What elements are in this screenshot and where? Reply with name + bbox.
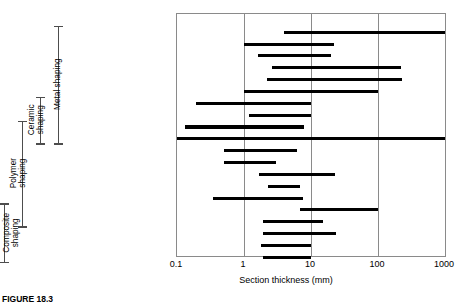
figure-caption: FIGURE 18.3: [2, 294, 53, 304]
range-bar: [284, 31, 445, 34]
range-bar: [267, 78, 402, 81]
category-label-column: Sand castingDie castingInvestment castin…: [0, 0, 174, 255]
gridline: [244, 14, 245, 256]
range-bar: [300, 208, 378, 211]
range-bar: [224, 149, 297, 152]
range-bar: [261, 244, 311, 247]
range-bar: [196, 102, 311, 105]
range-bar: [177, 137, 445, 140]
x-tick-label: 0.1: [170, 259, 183, 269]
x-tick-label: 100: [369, 259, 384, 269]
range-bar: [185, 125, 305, 128]
figure-container: Metal shapingCeramicshapingPolymershapin…: [0, 0, 462, 307]
range-bar: [244, 43, 334, 46]
x-tick-label: 10: [305, 259, 315, 269]
range-bar: [272, 66, 401, 69]
plot-area: [176, 13, 446, 257]
range-bar: [249, 114, 311, 117]
range-bar: [263, 232, 337, 235]
range-bar: [259, 173, 335, 176]
x-tick-label: 1: [240, 259, 245, 269]
gridline: [378, 14, 379, 256]
range-bar: [263, 220, 323, 223]
range-bar: [244, 90, 378, 93]
range-bar: [258, 54, 331, 57]
x-tick-label: 1000: [434, 259, 454, 269]
range-bar: [263, 256, 311, 259]
range-bar: [213, 197, 302, 200]
bracket-cap-bottom: [0, 262, 9, 263]
range-bar: [224, 161, 276, 164]
x-axis-title: Section thickness (mm): [239, 275, 333, 285]
range-bar: [268, 185, 300, 188]
